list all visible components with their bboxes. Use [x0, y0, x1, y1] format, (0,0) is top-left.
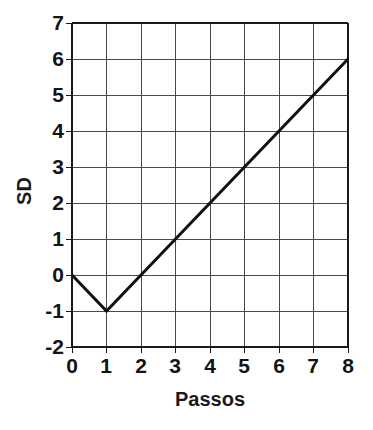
axis-tick-marks [66, 23, 348, 353]
gridlines [72, 23, 348, 347]
plot-area [0, 0, 373, 430]
chart-figure: SD 7 6 5 4 3 2 1 0 -1 -2 [0, 0, 373, 430]
